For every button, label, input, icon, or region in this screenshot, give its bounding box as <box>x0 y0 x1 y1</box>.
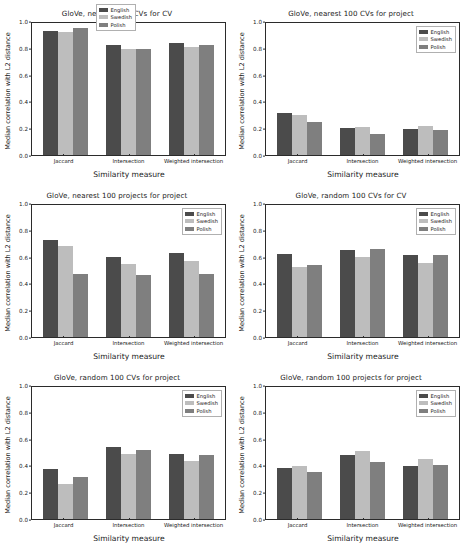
x-tick-label: Jaccard <box>54 340 74 346</box>
legend-item-english: English <box>419 393 452 399</box>
x-tick-label: Weighted intersection <box>164 340 223 346</box>
legend-item-english: English <box>185 393 218 399</box>
bar-english-jaccard <box>277 113 292 155</box>
legend-swatch-swedish <box>419 401 428 405</box>
x-tick-mark <box>428 336 429 339</box>
legend-item-polish: Polish <box>185 408 218 414</box>
bar-english-intersection <box>106 257 121 337</box>
y-tick-label: 0.2 <box>253 490 262 496</box>
y-tick-label: 0.2 <box>253 308 262 314</box>
plot-area: EnglishSwedishPolish <box>265 22 460 156</box>
chart-panel-3: GloVe, nearest 100 projects for projectM… <box>0 182 234 364</box>
bar-swedish-intersection <box>355 257 370 337</box>
y-tick-label: 0.2 <box>19 126 28 132</box>
x-axis-ticks: JaccardIntersectionWeighted intersection <box>31 156 226 170</box>
y-tick-label: 0.0 <box>253 517 262 523</box>
x-axis-label: Similarity measure <box>30 534 228 543</box>
y-axis-ticks: 0.00.20.40.60.81.0 <box>234 386 265 520</box>
y-tick-label: 1.0 <box>253 19 262 25</box>
chart-panel-4: GloVe, random 100 CVs for CVMedian corre… <box>234 182 468 364</box>
y-tick-label: 0.0 <box>253 335 262 341</box>
legend-label-polish: Polish <box>197 226 212 232</box>
y-tick-label: 0.0 <box>19 517 28 523</box>
bar-polish-jaccard <box>307 472 322 519</box>
y-tick-label: 0.6 <box>253 73 262 79</box>
bar-group <box>97 23 160 155</box>
x-axis-ticks: JaccardIntersectionWeighted intersection <box>265 156 460 170</box>
bar-polish-weighted-intersection <box>199 274 214 337</box>
bar-english-intersection <box>106 45 121 155</box>
bar-english-intersection <box>340 128 355 155</box>
x-tick-label: Weighted intersection <box>398 158 457 164</box>
y-tick-label: 1.0 <box>253 383 262 389</box>
bar-english-weighted-intersection <box>403 129 418 155</box>
legend-item-polish: Polish <box>419 226 452 232</box>
bar-swedish-jaccard <box>58 246 73 337</box>
legend-label-polish: Polish <box>197 408 212 414</box>
legend-item-polish: Polish <box>99 22 132 28</box>
bar-group <box>331 205 394 337</box>
chart-legend: EnglishSwedishPolish <box>416 26 456 53</box>
legend-label-english: English <box>431 211 450 217</box>
legend-swatch-swedish <box>185 219 194 223</box>
chart-legend: EnglishSwedishPolish <box>416 208 456 235</box>
legend-swatch-english <box>419 394 428 398</box>
y-tick-label: 0.4 <box>253 99 262 105</box>
legend-swatch-english <box>419 30 428 34</box>
bar-swedish-jaccard <box>58 484 73 519</box>
bars-container <box>32 23 225 155</box>
bar-swedish-weighted-intersection <box>418 459 433 519</box>
y-tick-label: 0.8 <box>253 410 262 416</box>
x-tick-label: Jaccard <box>288 340 308 346</box>
legend-swatch-polish <box>99 23 108 27</box>
bar-swedish-jaccard <box>292 267 307 337</box>
bar-group <box>268 387 331 519</box>
x-tick-mark <box>297 154 298 157</box>
bar-swedish-intersection <box>121 49 136 155</box>
y-tick-label: 0.4 <box>253 463 262 469</box>
y-tick-label: 0.8 <box>19 46 28 52</box>
x-axis-ticks: JaccardIntersectionWeighted intersection <box>31 520 226 534</box>
chart-panel-2: GloVe, nearest 100 CVs for projectMedian… <box>234 0 468 182</box>
x-axis-label: Similarity measure <box>30 352 228 361</box>
y-tick-label: 0.6 <box>253 437 262 443</box>
y-tick-label: 0.6 <box>19 255 28 261</box>
bar-english-jaccard <box>43 240 58 337</box>
bar-swedish-weighted-intersection <box>184 261 199 337</box>
legend-item-polish: Polish <box>419 44 452 50</box>
y-axis-ticks: 0.00.20.40.60.81.0 <box>234 204 265 338</box>
chart-panel-5: GloVe, random 100 CVs for projectMedian … <box>0 364 234 544</box>
legend-swatch-english <box>185 212 194 216</box>
y-tick-label: 0.4 <box>19 463 28 469</box>
x-tick-label: Intersection <box>346 340 378 346</box>
x-axis-label: Similarity measure <box>264 352 462 361</box>
legend-label-english: English <box>431 393 450 399</box>
x-tick-mark <box>363 336 364 339</box>
legend-item-swedish: Swedish <box>185 218 218 224</box>
bar-polish-jaccard <box>307 265 322 337</box>
bar-polish-weighted-intersection <box>199 45 214 155</box>
bar-polish-intersection <box>370 249 385 337</box>
bar-english-weighted-intersection <box>169 454 184 519</box>
x-tick-label: Intersection <box>346 522 378 528</box>
bar-swedish-intersection <box>121 264 136 337</box>
bar-swedish-intersection <box>355 451 370 519</box>
bar-english-intersection <box>340 455 355 519</box>
bar-group <box>331 387 394 519</box>
y-axis-ticks: 0.00.20.40.60.81.0 <box>0 204 31 338</box>
x-tick-label: Jaccard <box>54 522 74 528</box>
y-tick-label: 1.0 <box>253 201 262 207</box>
chart-title: GloVe, random 100 projects for project <box>234 373 468 382</box>
bar-swedish-weighted-intersection <box>184 461 199 519</box>
x-tick-mark <box>129 154 130 157</box>
bar-swedish-weighted-intersection <box>184 47 199 155</box>
bar-group <box>34 387 97 519</box>
y-tick-label: 0.2 <box>19 308 28 314</box>
y-tick-label: 0.0 <box>19 153 28 159</box>
bar-group <box>160 23 223 155</box>
x-tick-mark <box>63 154 64 157</box>
legend-label-swedish: Swedish <box>431 400 452 406</box>
x-tick-label: Intersection <box>112 522 144 528</box>
x-tick-label: Weighted intersection <box>398 522 457 528</box>
legend-item-swedish: Swedish <box>185 400 218 406</box>
